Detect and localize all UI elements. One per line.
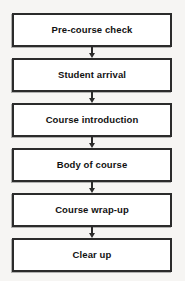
flowchart-node-course-wrap-up[interactable]: Course wrap-up: [12, 193, 172, 227]
flowchart-node-body-of-course[interactable]: Body of course: [12, 148, 172, 182]
flowchart-node-label: Body of course: [57, 160, 128, 170]
flowchart-node-pre-course-check[interactable]: Pre-course check: [12, 13, 172, 47]
flowchart-node-label: Course wrap-up: [55, 205, 129, 215]
flowchart-connector-5: [12, 227, 172, 238]
flowchart-node-course-introduction[interactable]: Course introduction: [12, 103, 172, 137]
flowchart-node-label: Course introduction: [46, 115, 139, 125]
flowchart-connector-1: [12, 47, 172, 58]
flowchart-diagram: Pre-course check Student arrival Course …: [0, 0, 185, 281]
flowchart-node-clear-up[interactable]: Clear up: [12, 238, 172, 272]
flowchart-node-label: Student arrival: [58, 70, 126, 80]
flowchart-node-label: Clear up: [73, 250, 112, 260]
flowchart-connector-2: [12, 92, 172, 103]
flowchart-node-student-arrival[interactable]: Student arrival: [12, 58, 172, 92]
flowchart-node-label: Pre-course check: [52, 25, 133, 35]
flowchart-connector-3: [12, 137, 172, 148]
flowchart-connector-4: [12, 182, 172, 193]
